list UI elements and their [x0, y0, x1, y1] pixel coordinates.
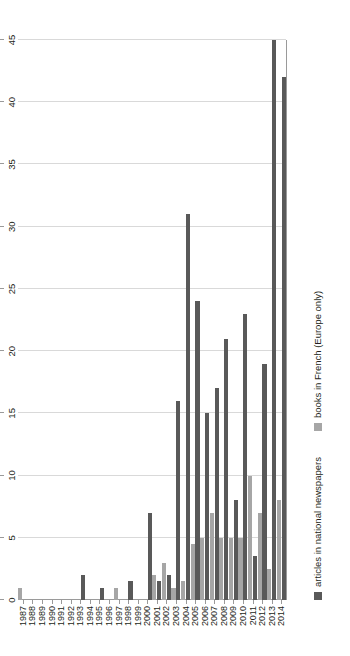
category-tick-2000 [147, 600, 148, 604]
category-tick-1995 [99, 600, 100, 604]
chart-legend: articles in national newspapers books in… [312, 291, 323, 600]
category-label-2012: 2012 [257, 606, 267, 626]
value-tick-label-15: 15 [6, 408, 17, 419]
category-tick-1991 [61, 600, 62, 604]
value-tick-5 [0, 537, 4, 538]
category-tick-2011 [253, 600, 254, 604]
category-tick-1988 [32, 600, 33, 604]
category-tick-2009 [233, 600, 234, 604]
bar-articles-2003 [176, 401, 180, 600]
category-label-2010: 2010 [238, 606, 248, 626]
category-label-1992: 1992 [66, 606, 76, 626]
bar-articles-2002 [167, 575, 171, 600]
category-tick-1987 [23, 600, 24, 604]
legend-item-books: books in French (Europe only) [312, 291, 323, 431]
bar-articles-2009 [234, 500, 238, 600]
bar-books-2007 [210, 513, 214, 600]
category-label-2008: 2008 [219, 606, 229, 626]
category-tick-2013 [272, 600, 273, 604]
value-tick-label-40: 40 [6, 97, 17, 108]
bar-books-2003 [171, 588, 175, 600]
books-swatch-icon [314, 423, 322, 431]
category-tick-1998 [128, 600, 129, 604]
bar-books-1987 [18, 588, 22, 600]
value-tick-label-30: 30 [6, 221, 17, 232]
category-label-2014: 2014 [276, 606, 286, 626]
category-tick-1999 [138, 600, 139, 604]
category-tick-1996 [109, 600, 110, 604]
category-tick-2007 [214, 600, 215, 604]
category-tick-1989 [42, 600, 43, 604]
category-label-1988: 1988 [27, 606, 37, 626]
bar-articles-2013 [272, 40, 276, 600]
value-tick-label-5: 5 [6, 535, 17, 540]
bar-articles-2000 [148, 513, 152, 600]
bar-articles-2006 [205, 413, 209, 600]
category-tick-2014 [281, 600, 282, 604]
legend-item-articles: articles in national newspapers [312, 457, 323, 600]
category-label-2002: 2002 [161, 606, 171, 626]
value-tick-label-35: 35 [6, 159, 17, 170]
category-tick-2005 [195, 600, 196, 604]
category-label-1996: 1996 [104, 606, 114, 626]
category-label-2007: 2007 [209, 606, 219, 626]
category-tick-2001 [157, 600, 158, 604]
category-label-2001: 2001 [152, 606, 162, 626]
category-tick-1993 [80, 600, 81, 604]
value-tick-35 [0, 163, 4, 164]
legend-label-books: books in French (Europe only) [312, 291, 323, 418]
bar-articles-2005 [195, 301, 199, 600]
bar-books-2005 [191, 544, 195, 600]
value-tick-label-45: 45 [6, 35, 17, 46]
bar-articles-2010 [243, 314, 247, 600]
bar-books-2013 [267, 569, 271, 600]
bar-books-2006 [200, 538, 204, 600]
category-tick-2004 [186, 600, 187, 604]
bar-chart-figure: 1987198819891990199119921993199419951996… [0, 0, 350, 656]
value-tick-label-20: 20 [6, 346, 17, 357]
gridline-35 [18, 163, 286, 164]
category-tick-1994 [90, 600, 91, 604]
category-label-2005: 2005 [190, 606, 200, 626]
gridline-25 [18, 288, 286, 289]
bar-articles-2001 [157, 581, 161, 600]
bar-articles-1998 [128, 581, 132, 600]
value-tick-label-10: 10 [6, 470, 17, 481]
gridline-30 [18, 226, 286, 227]
gridline-45 [18, 39, 286, 40]
category-label-2004: 2004 [181, 606, 191, 626]
bar-books-2010 [238, 538, 242, 600]
category-label-1993: 1993 [75, 606, 85, 626]
category-tick-1992 [71, 600, 72, 604]
value-tick-15 [0, 412, 4, 413]
category-tick-1990 [52, 600, 53, 604]
bar-books-2014 [277, 500, 281, 600]
value-tick-20 [0, 350, 4, 351]
bar-articles-2004 [186, 214, 190, 600]
category-label-1994: 1994 [85, 606, 95, 626]
bar-articles-2008 [224, 339, 228, 600]
category-tick-2012 [262, 600, 263, 604]
category-label-1987: 1987 [18, 606, 28, 626]
gridline-40 [18, 101, 286, 102]
bar-books-2009 [229, 538, 233, 600]
category-label-1995: 1995 [94, 606, 104, 626]
category-label-1990: 1990 [47, 606, 57, 626]
category-label-1997: 1997 [114, 606, 124, 626]
category-tick-2006 [205, 600, 206, 604]
category-label-2013: 2013 [267, 606, 277, 626]
legend-label-articles: articles in national newspapers [312, 457, 323, 587]
category-label-1998: 1998 [123, 606, 133, 626]
category-label-1991: 1991 [56, 606, 66, 626]
value-axis-line [286, 40, 287, 600]
category-label-2003: 2003 [171, 606, 181, 626]
bar-articles-2012 [262, 364, 266, 600]
category-label-1989: 1989 [37, 606, 47, 626]
chart-page: 1987198819891990199119921993199419951996… [0, 0, 350, 656]
bar-books-2001 [152, 575, 156, 600]
value-tick-30 [0, 226, 4, 227]
value-tick-40 [0, 101, 4, 102]
bar-books-2008 [219, 538, 223, 600]
value-tick-label-0: 0 [6, 597, 17, 602]
bar-books-2002 [162, 563, 166, 600]
